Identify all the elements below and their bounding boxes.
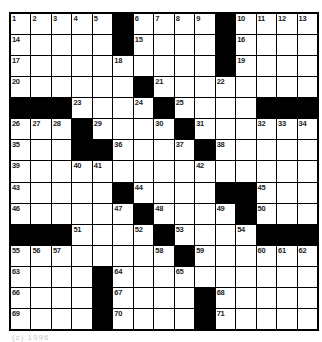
grid-cell[interactable] bbox=[298, 183, 317, 203]
grid-cell[interactable] bbox=[236, 98, 255, 118]
grid-cell[interactable]: 8 bbox=[175, 14, 194, 34]
grid-cell[interactable] bbox=[277, 288, 296, 308]
grid-cell[interactable]: 24 bbox=[134, 98, 153, 118]
grid-cell[interactable] bbox=[72, 288, 91, 308]
grid-cell[interactable] bbox=[134, 56, 153, 76]
grid-cell[interactable] bbox=[257, 35, 276, 55]
grid-cell[interactable] bbox=[195, 56, 214, 76]
grid-cell[interactable] bbox=[216, 267, 235, 287]
grid-cell[interactable] bbox=[31, 35, 50, 55]
grid-cell[interactable] bbox=[154, 56, 173, 76]
grid-cell[interactable] bbox=[257, 77, 276, 97]
grid-cell[interactable]: 37 bbox=[175, 140, 194, 160]
grid-cell[interactable]: 40 bbox=[72, 161, 91, 181]
grid-cell[interactable] bbox=[113, 246, 132, 266]
grid-cell[interactable] bbox=[93, 35, 112, 55]
grid-cell[interactable]: 18 bbox=[113, 56, 132, 76]
grid-cell[interactable] bbox=[195, 204, 214, 224]
grid-cell[interactable]: 31 bbox=[195, 119, 214, 139]
grid-cell[interactable]: 56 bbox=[31, 246, 50, 266]
grid-cell[interactable]: 38 bbox=[216, 140, 235, 160]
grid-cell[interactable] bbox=[236, 140, 255, 160]
grid-cell[interactable] bbox=[298, 56, 317, 76]
grid-cell[interactable] bbox=[113, 161, 132, 181]
grid-cell[interactable] bbox=[236, 119, 255, 139]
grid-cell[interactable]: 42 bbox=[195, 161, 214, 181]
grid-cell[interactable]: 23 bbox=[72, 98, 91, 118]
grid-cell[interactable] bbox=[154, 161, 173, 181]
grid-cell[interactable] bbox=[236, 309, 255, 329]
grid-cell[interactable]: 68 bbox=[216, 288, 235, 308]
grid-cell[interactable]: 22 bbox=[216, 77, 235, 97]
grid-cell[interactable] bbox=[298, 161, 317, 181]
grid-cell[interactable] bbox=[72, 246, 91, 266]
grid-cell[interactable]: 6 bbox=[134, 14, 153, 34]
grid-cell[interactable] bbox=[216, 119, 235, 139]
grid-cell[interactable] bbox=[195, 267, 214, 287]
grid-cell[interactable]: 12 bbox=[277, 14, 296, 34]
grid-cell[interactable] bbox=[257, 140, 276, 160]
grid-cell[interactable] bbox=[216, 98, 235, 118]
grid-cell[interactable] bbox=[134, 309, 153, 329]
grid-cell[interactable]: 21 bbox=[154, 77, 173, 97]
grid-cell[interactable] bbox=[257, 309, 276, 329]
grid-cell[interactable] bbox=[134, 246, 153, 266]
grid-cell[interactable] bbox=[298, 204, 317, 224]
grid-cell[interactable] bbox=[134, 161, 153, 181]
grid-cell[interactable]: 66 bbox=[11, 288, 30, 308]
grid-cell[interactable]: 70 bbox=[113, 309, 132, 329]
grid-cell[interactable] bbox=[216, 161, 235, 181]
grid-cell[interactable] bbox=[257, 288, 276, 308]
grid-cell[interactable] bbox=[31, 56, 50, 76]
grid-cell[interactable] bbox=[154, 288, 173, 308]
grid-cell[interactable] bbox=[236, 246, 255, 266]
grid-cell[interactable] bbox=[236, 161, 255, 181]
grid-cell[interactable] bbox=[31, 309, 50, 329]
grid-cell[interactable]: 43 bbox=[11, 183, 30, 203]
grid-cell[interactable]: 17 bbox=[11, 56, 30, 76]
grid-cell[interactable] bbox=[195, 183, 214, 203]
grid-cell[interactable]: 51 bbox=[72, 225, 91, 245]
grid-cell[interactable]: 28 bbox=[52, 119, 71, 139]
grid-cell[interactable] bbox=[72, 35, 91, 55]
grid-cell[interactable] bbox=[93, 246, 112, 266]
grid-cell[interactable] bbox=[72, 309, 91, 329]
grid-cell[interactable]: 26 bbox=[11, 119, 30, 139]
grid-cell[interactable]: 39 bbox=[11, 161, 30, 181]
grid-cell[interactable] bbox=[72, 204, 91, 224]
grid-cell[interactable]: 2 bbox=[31, 14, 50, 34]
grid-cell[interactable]: 5 bbox=[93, 14, 112, 34]
grid-cell[interactable]: 60 bbox=[257, 246, 276, 266]
grid-cell[interactable] bbox=[72, 267, 91, 287]
grid-cell[interactable]: 69 bbox=[11, 309, 30, 329]
grid-cell[interactable] bbox=[298, 288, 317, 308]
grid-cell[interactable] bbox=[195, 35, 214, 55]
grid-cell[interactable] bbox=[31, 77, 50, 97]
grid-cell[interactable] bbox=[31, 267, 50, 287]
grid-cell[interactable] bbox=[52, 161, 71, 181]
grid-cell[interactable] bbox=[154, 267, 173, 287]
grid-cell[interactable] bbox=[277, 140, 296, 160]
grid-cell[interactable] bbox=[134, 140, 153, 160]
grid-cell[interactable] bbox=[93, 56, 112, 76]
grid-cell[interactable]: 65 bbox=[175, 267, 194, 287]
grid-cell[interactable]: 14 bbox=[11, 35, 30, 55]
grid-cell[interactable]: 11 bbox=[257, 14, 276, 34]
grid-cell[interactable] bbox=[52, 309, 71, 329]
grid-cell[interactable]: 1 bbox=[11, 14, 30, 34]
grid-cell[interactable] bbox=[93, 204, 112, 224]
grid-cell[interactable] bbox=[175, 77, 194, 97]
grid-cell[interactable] bbox=[113, 77, 132, 97]
grid-cell[interactable] bbox=[236, 77, 255, 97]
grid-cell[interactable] bbox=[175, 183, 194, 203]
grid-cell[interactable] bbox=[175, 288, 194, 308]
grid-cell[interactable] bbox=[52, 183, 71, 203]
grid-cell[interactable] bbox=[298, 309, 317, 329]
grid-cell[interactable]: 49 bbox=[216, 204, 235, 224]
grid-cell[interactable] bbox=[175, 309, 194, 329]
grid-cell[interactable]: 67 bbox=[113, 288, 132, 308]
grid-cell[interactable]: 10 bbox=[236, 14, 255, 34]
grid-cell[interactable] bbox=[175, 35, 194, 55]
grid-cell[interactable] bbox=[257, 56, 276, 76]
grid-cell[interactable]: 44 bbox=[134, 183, 153, 203]
